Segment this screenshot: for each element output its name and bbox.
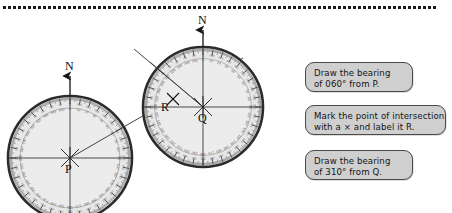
- instruction-1-line-2: of 060° from P.: [314, 79, 405, 90]
- instruction-3-line-2: of 310° from Q.: [314, 167, 405, 178]
- instruction-box-mark-intersection[interactable]: Mark the point of intersection with a × …: [305, 105, 446, 135]
- point-label-p: P: [65, 163, 72, 175]
- point-label-r: R: [161, 101, 169, 113]
- instruction-1-line-1: Draw the bearing: [314, 68, 405, 79]
- protractor-q: 0010350203403033040320503106030070290802…: [134, 30, 263, 167]
- svg-text:80: 80: [116, 147, 121, 152]
- instruction-2-line-2: with a × and label it R.: [314, 122, 438, 133]
- svg-text:80: 80: [247, 97, 252, 102]
- north-label-q: N: [198, 14, 207, 26]
- instruction-3-line-1: Draw the bearing: [314, 156, 405, 167]
- instruction-2-line-1: Mark the point of intersection: [314, 111, 438, 122]
- svg-text:190: 190: [77, 209, 83, 213]
- svg-text:10: 10: [209, 59, 214, 64]
- instruction-box-draw-bearing-060[interactable]: Draw the bearing of 060° from P.: [305, 62, 413, 92]
- svg-text:10: 10: [76, 108, 81, 113]
- worksheet-canvas: 0010350203403033040320503106030070290802…: [0, 0, 452, 213]
- instruction-box-draw-bearing-310[interactable]: Draw the bearing of 310° from Q.: [305, 150, 413, 180]
- point-label-q: Q: [198, 112, 207, 124]
- svg-text:170: 170: [58, 209, 64, 213]
- north-label-p: N: [65, 60, 74, 72]
